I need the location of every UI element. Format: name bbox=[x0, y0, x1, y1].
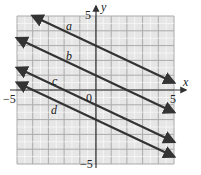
line-label-b: b bbox=[66, 49, 72, 63]
y-axis-label: y bbox=[100, 0, 107, 14]
coordinate-plane: x y −5 5 5 −5 0 a b c d bbox=[0, 0, 201, 175]
line-label-c: c bbox=[52, 74, 58, 88]
y-tick-min: −5 bbox=[80, 157, 93, 171]
y-tick-max: 5 bbox=[85, 8, 91, 22]
line-label-d: d bbox=[51, 103, 58, 117]
x-axis-label: x bbox=[182, 75, 189, 89]
line-label-a: a bbox=[66, 19, 72, 33]
x-tick-max: 5 bbox=[170, 92, 176, 106]
origin-label: 0 bbox=[86, 91, 92, 105]
x-tick-min: −5 bbox=[3, 92, 16, 106]
